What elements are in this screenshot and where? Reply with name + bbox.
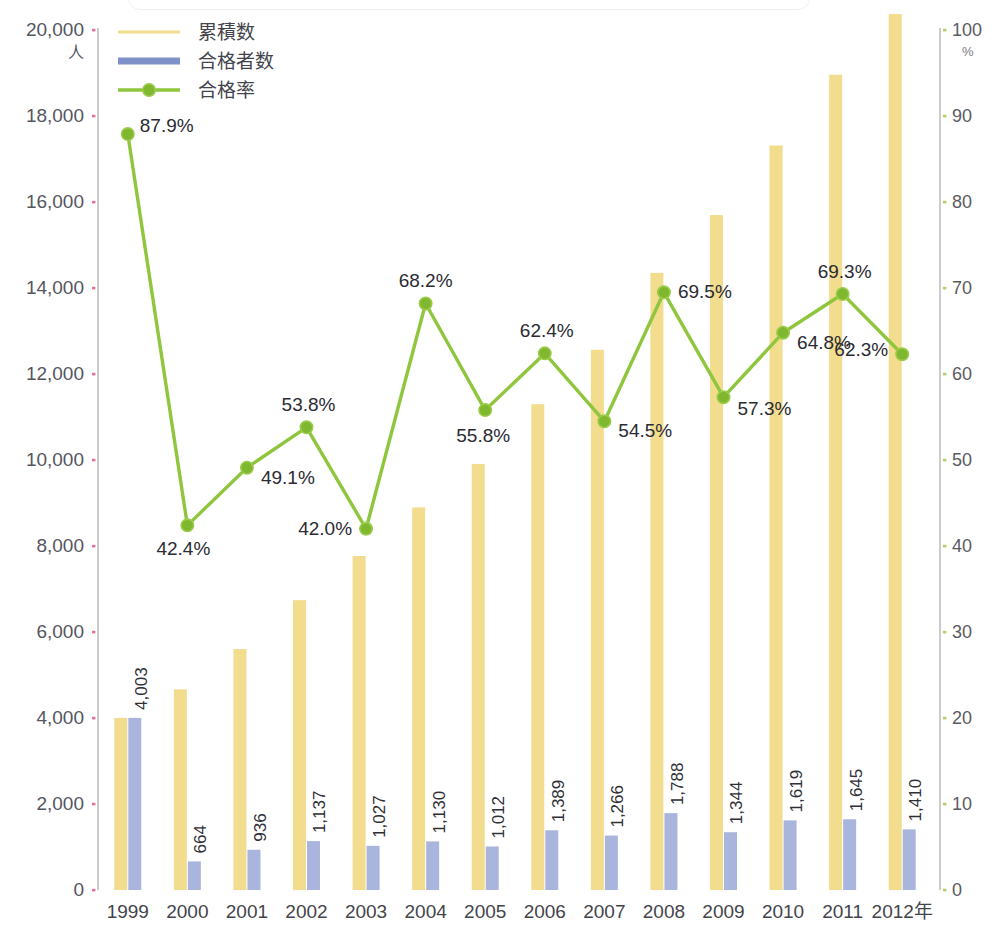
- pass-rate-marker: [896, 348, 908, 360]
- passers-bar: [426, 841, 439, 890]
- passers-value-label: 1,389: [549, 780, 568, 823]
- passers-bar: [724, 832, 737, 890]
- y-axis-tick-label: 0: [73, 879, 84, 900]
- pass-rate-value-label: 49.1%: [261, 467, 315, 488]
- y-tick-mark: [92, 545, 95, 548]
- cumulative-bar: [412, 507, 425, 890]
- passers-value-label: 1,012: [489, 796, 508, 839]
- pass-rate-value-label: 42.0%: [298, 518, 352, 539]
- passers-value-label: 4,003: [132, 667, 151, 710]
- pass-rate-value-label: 69.5%: [678, 281, 732, 302]
- y2-tick-mark: [943, 717, 946, 720]
- y2-axis-tick-label: 50: [952, 450, 972, 470]
- passers-bar: [605, 836, 618, 890]
- cumulative-bar: [472, 464, 485, 890]
- y-tick-mark: [92, 115, 95, 118]
- y-axis-unit-label: 人: [68, 44, 84, 61]
- pass-rate-marker: [419, 297, 431, 309]
- x-axis-tick-label: 2005: [464, 901, 506, 922]
- pass-rate-value-label: 69.3%: [818, 261, 872, 282]
- y-tick-mark: [92, 631, 95, 634]
- pass-rate-marker: [181, 519, 193, 531]
- y-tick-mark: [92, 373, 95, 376]
- cumulative-bar: [293, 600, 306, 890]
- passers-value-label: 1,645: [847, 769, 866, 812]
- passers-value-label: 664: [191, 825, 210, 853]
- pass-rate-value-label: 53.8%: [282, 394, 336, 415]
- pass-rate-marker: [479, 404, 491, 416]
- y2-axis-tick-label: 0: [952, 880, 962, 900]
- passers-bar: [247, 850, 260, 890]
- y2-tick-mark: [943, 459, 946, 462]
- pass-rate-value-label: 54.5%: [618, 420, 672, 441]
- passers-value-label: 1,344: [728, 782, 747, 825]
- y-tick-mark: [92, 803, 95, 806]
- cumulative-bar: [829, 75, 842, 890]
- passers-bar: [843, 819, 856, 890]
- y-axis-tick-label: 2,000: [36, 793, 84, 814]
- pass-rate-marker: [658, 286, 670, 298]
- y2-axis-tick-label: 90: [952, 106, 972, 126]
- pass-rate-marker: [777, 327, 789, 339]
- y2-axis-tick-label: 60: [952, 364, 972, 384]
- y2-axis-tick-label: 20: [952, 708, 972, 728]
- y-tick-mark: [92, 717, 95, 720]
- passers-bar: [903, 829, 916, 890]
- x-axis-tick-label: 2011: [822, 901, 863, 922]
- x-axis-tick-label: 1999: [107, 901, 149, 922]
- y2-tick-mark: [943, 545, 946, 548]
- pass-rate-value-label: 62.4%: [520, 320, 574, 341]
- x-axis-tick-label: 2001: [226, 901, 268, 922]
- passers-value-label: 1,619: [787, 770, 806, 813]
- passers-bar: [188, 861, 201, 890]
- cumulative-bar: [114, 718, 127, 890]
- pass-rate-marker: [360, 523, 372, 535]
- x-axis-tick-label: 2004: [405, 901, 448, 922]
- y-axis-tick-label: 18,000: [26, 105, 84, 126]
- y-tick-mark: [92, 29, 95, 32]
- x-axis-tick-label: 2012年: [872, 901, 933, 922]
- passers-value-label: 1,137: [311, 791, 330, 834]
- cumulative-bar: [770, 145, 783, 890]
- y2-axis-unit-label: %: [962, 44, 974, 59]
- y2-axis-tick-label: 80: [952, 192, 972, 212]
- y2-axis-tick-label: 30: [952, 622, 972, 642]
- legend-marker-rate: [143, 84, 155, 96]
- legend-item-label: 合格者数: [198, 51, 274, 72]
- passers-bar: [545, 830, 558, 890]
- passers-value-label: 936: [251, 813, 270, 841]
- cumulative-bar: [353, 556, 366, 890]
- cumulative-bar: [710, 215, 723, 890]
- y-axis-tick-label: 12,000: [26, 363, 84, 384]
- x-axis-tick-label: 2003: [345, 901, 387, 922]
- y2-tick-mark: [943, 373, 946, 376]
- cumulative-bar: [591, 350, 604, 890]
- y2-tick-mark: [943, 29, 946, 32]
- y2-tick-mark: [943, 631, 946, 634]
- passers-bar: [128, 718, 141, 890]
- passers-bar: [664, 813, 677, 890]
- x-axis-tick-label: 2010: [762, 901, 804, 922]
- cumulative-bar: [233, 649, 246, 890]
- passers-value-label: 1,130: [430, 791, 449, 834]
- pass-rate-value-label: 42.4%: [156, 538, 210, 559]
- y-axis-tick-label: 6,000: [36, 621, 84, 642]
- y2-tick-mark: [943, 201, 946, 204]
- passers-bar: [367, 846, 380, 890]
- y-axis-tick-label: 20,000: [26, 19, 84, 40]
- cumulative-bar: [889, 14, 902, 890]
- chart-plot-area: 02,0004,0006,0008,00010,00012,00014,0001…: [0, 0, 1002, 940]
- pass-rate-marker: [241, 462, 253, 474]
- pass-rate-marker: [300, 421, 312, 433]
- x-axis-tick-label: 2007: [583, 901, 625, 922]
- cumulative-bar: [531, 404, 544, 890]
- passers-value-label: 1,788: [668, 763, 687, 806]
- passers-value-label: 1,027: [370, 795, 389, 838]
- y2-tick-mark: [943, 115, 946, 118]
- legend-item-label: 累積数: [198, 22, 255, 43]
- pass-rate-marker: [598, 415, 610, 427]
- passers-value-label: 1,410: [906, 779, 925, 822]
- pass-rate-value-label: 68.2%: [399, 270, 453, 291]
- passers-value-label: 1,266: [608, 785, 627, 828]
- y2-axis-tick-label: 40: [952, 536, 972, 556]
